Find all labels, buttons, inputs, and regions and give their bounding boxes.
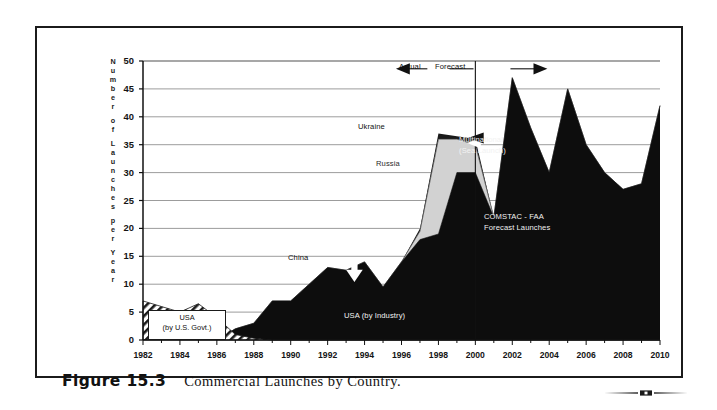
x-tick-label: 2008 — [606, 350, 640, 360]
y-axis-title-letter: e — [106, 93, 120, 102]
y-tick-label: 0 — [112, 334, 134, 345]
x-tick-label: 1986 — [200, 350, 234, 360]
comstac-label-line2: Forecast Launches — [484, 223, 550, 232]
x-tick-label: 2004 — [532, 350, 566, 360]
x-tick-label: 1990 — [274, 350, 308, 360]
multinational-label-line1: Multinational — [459, 135, 503, 144]
x-tick-label: 1988 — [237, 350, 271, 360]
x-tick-label: 1994 — [348, 350, 382, 360]
y-tick-label: 25 — [112, 195, 134, 206]
y-axis-title-letter: u — [106, 66, 120, 75]
x-tick-label: 1982 — [126, 350, 160, 360]
y-tick-label: 20 — [112, 222, 134, 233]
multinational-label-line2: (Sea Launch) — [459, 146, 506, 155]
russia-label: Russia — [376, 159, 400, 168]
y-axis-title-letter: h — [106, 184, 120, 193]
actual-label: Actual — [399, 62, 421, 71]
x-tick-label: 2002 — [495, 350, 529, 360]
forecast-label: Forecast — [435, 62, 465, 71]
usa-government-legend-box: USA (by U.S. Govt.) — [148, 310, 226, 340]
x-tick-label: 2006 — [569, 350, 603, 360]
chart-canvas: NumberofLaunchesperYear 0510152025303540… — [0, 0, 717, 410]
china-label: China — [288, 253, 308, 262]
y-tick-label: 10 — [112, 278, 134, 289]
x-tick-label: 1996 — [385, 350, 419, 360]
figure-caption-text: Commercial Launches by Country. — [184, 373, 401, 390]
figure-caption: Figure 15.3 Commercial Launches by Count… — [62, 372, 622, 398]
y-axis-title-letter: u — [106, 157, 120, 166]
page-root: NumberofLaunchesperYear 0510152025303540… — [0, 0, 717, 410]
x-tick-label: 1992 — [311, 350, 345, 360]
y-tick-label: 5 — [112, 306, 134, 317]
usa-gov-label-line1: USA — [149, 313, 225, 323]
figure-number: Figure 15.3 — [62, 372, 166, 390]
y-axis-title-letter: a — [106, 266, 120, 275]
ukraine-label: Ukraine — [358, 122, 385, 131]
comstac-label-line1: COMSTAC - FAA — [484, 212, 544, 221]
ornament-rule — [604, 389, 688, 397]
y-tick-label: 30 — [112, 167, 134, 178]
usa-gov-label-line2: (by U.S. Govt.) — [149, 323, 225, 333]
x-tick-label: 1984 — [163, 350, 197, 360]
y-tick-label: 40 — [112, 111, 134, 122]
y-axis-title-letter: r — [106, 234, 120, 243]
x-tick-label: 2010 — [643, 350, 677, 360]
y-tick-label: 45 — [112, 83, 134, 94]
x-tick-label: 1998 — [421, 350, 455, 360]
y-axis-title-letter: f — [106, 125, 120, 134]
y-tick-label: 35 — [112, 139, 134, 150]
y-tick-label: 15 — [112, 250, 134, 261]
y-tick-label: 50 — [112, 55, 134, 66]
usa-industry-label: USA (by Industry) — [344, 311, 405, 320]
x-tick-label: 2000 — [458, 350, 492, 360]
